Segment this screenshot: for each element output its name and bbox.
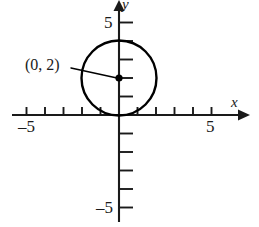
center-point-marker bbox=[115, 74, 122, 81]
figure-root: x y –5 5 5 –5 (0, 2) bbox=[0, 0, 259, 227]
x-tick-label-5: 5 bbox=[206, 118, 215, 135]
coordinate-plane-graphic bbox=[0, 0, 259, 227]
callout-leader-line bbox=[71, 68, 117, 78]
y-axis-label: y bbox=[122, 0, 129, 12]
center-point-label: (0, 2) bbox=[25, 57, 60, 73]
y-tick-label-minus5: –5 bbox=[96, 199, 113, 216]
x-tick-label-minus5: –5 bbox=[18, 118, 35, 135]
y-tick-label-5: 5 bbox=[104, 14, 113, 31]
x-axis-arrow-icon bbox=[238, 110, 250, 121]
x-axis-label: x bbox=[231, 95, 238, 110]
